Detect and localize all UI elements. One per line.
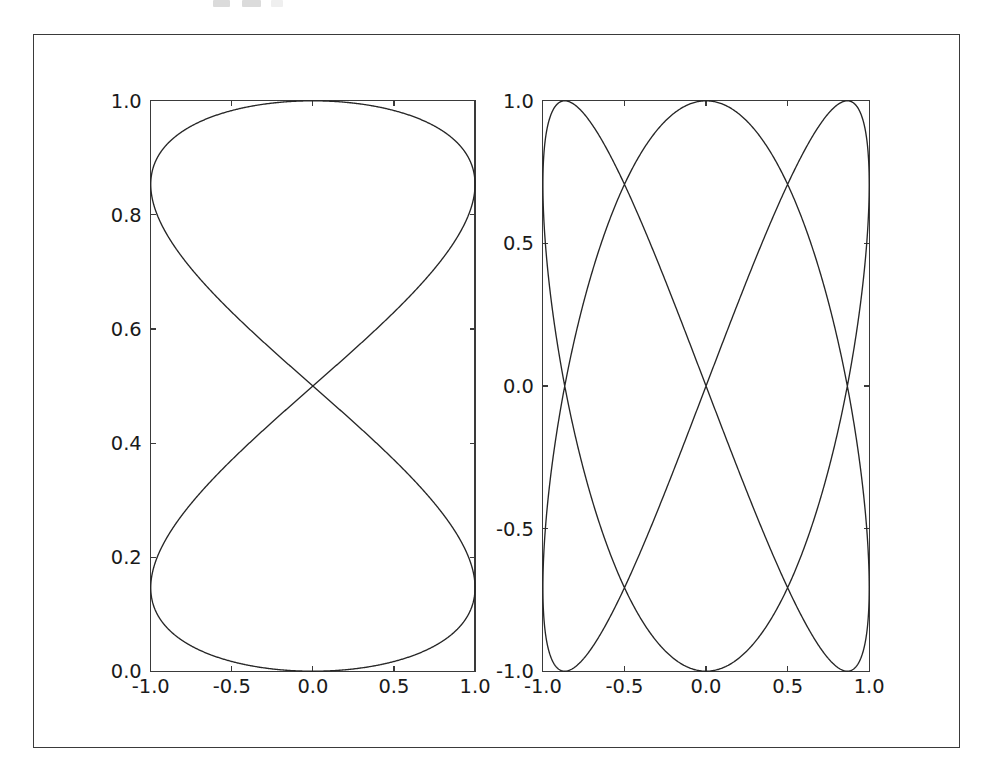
scan-artifact-blob <box>242 0 261 7</box>
left-data-curve <box>151 101 475 671</box>
x-tick-label: -0.5 <box>605 675 643 698</box>
y-tick-label: 0.5 <box>503 232 534 255</box>
x-tick-label: 1.0 <box>460 675 491 698</box>
x-tick-label: -0.5 <box>213 675 251 698</box>
y-tick-label: 0.8 <box>111 204 142 227</box>
x-tick-label: 0.5 <box>379 675 410 698</box>
chart-panel-right: -1.0-0.50.00.51.0-1.0-0.50.00.51.0 <box>496 90 885 698</box>
x-tick-label: 0.5 <box>772 675 803 698</box>
figure-canvas: -1.0-0.50.00.51.00.00.20.40.60.81.0 -1.0… <box>34 35 959 747</box>
y-tick-label: -0.5 <box>496 518 534 541</box>
x-tick-label: 0.0 <box>691 675 722 698</box>
y-tick-label: 0.4 <box>111 432 142 455</box>
chart-panel-left: -1.0-0.50.00.51.00.00.20.40.60.81.0 <box>111 90 491 698</box>
x-tick-label: 1.0 <box>854 675 885 698</box>
y-tick-label: 0.6 <box>111 318 142 341</box>
x-tick-label: 0.0 <box>297 675 328 698</box>
right-axis-tick-labels: -1.0-0.50.00.51.0-1.0-0.50.00.51.0 <box>496 90 885 698</box>
scan-artifact <box>213 0 283 9</box>
y-tick-label: -1.0 <box>496 660 534 683</box>
right-data-curve <box>543 101 869 671</box>
scan-artifact-blob <box>271 0 283 7</box>
y-tick-label: 1.0 <box>111 90 142 113</box>
y-tick-label: 0.0 <box>111 660 142 683</box>
y-tick-label: 1.0 <box>503 90 534 113</box>
left-axis-tick-labels: -1.0-0.50.00.51.00.00.20.40.60.81.0 <box>111 90 491 698</box>
y-tick-label: 0.0 <box>503 375 534 398</box>
figure-frame: -1.0-0.50.00.51.00.00.20.40.60.81.0 -1.0… <box>33 34 960 748</box>
y-tick-label: 0.2 <box>111 546 142 569</box>
scan-artifact-blob <box>213 0 230 7</box>
